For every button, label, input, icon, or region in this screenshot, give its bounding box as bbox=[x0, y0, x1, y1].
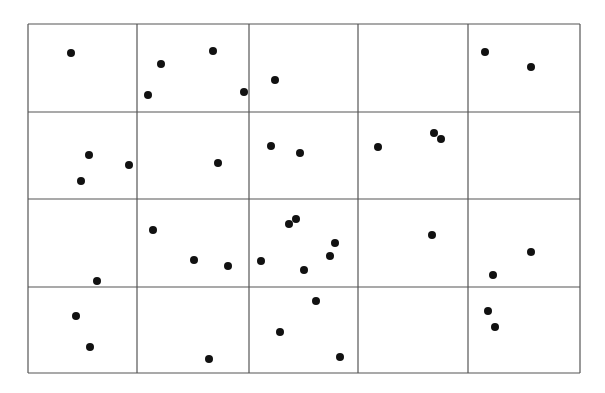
dot-point bbox=[326, 252, 334, 260]
dot-point bbox=[149, 226, 157, 234]
dot-point bbox=[205, 355, 213, 363]
dot-point bbox=[144, 91, 152, 99]
dot-point bbox=[157, 60, 165, 68]
grid-lines bbox=[28, 24, 580, 373]
dot-point bbox=[481, 48, 489, 56]
dot-point bbox=[224, 262, 232, 270]
dot-point bbox=[257, 257, 265, 265]
dot-point bbox=[374, 143, 382, 151]
dot-point bbox=[85, 151, 93, 159]
dot-point bbox=[437, 135, 445, 143]
dot-point bbox=[489, 271, 497, 279]
dot-point bbox=[267, 142, 275, 150]
dot-point bbox=[527, 63, 535, 71]
dot-point bbox=[312, 297, 320, 305]
dot-point bbox=[93, 277, 101, 285]
dot-point bbox=[271, 76, 279, 84]
dot-point bbox=[336, 353, 344, 361]
dot-point bbox=[527, 248, 535, 256]
dot-point bbox=[86, 343, 94, 351]
dot-point bbox=[300, 266, 308, 274]
dot-point bbox=[214, 159, 222, 167]
dot-point bbox=[209, 47, 217, 55]
dot-point bbox=[430, 129, 438, 137]
dot-point bbox=[285, 220, 293, 228]
dot-point bbox=[72, 312, 80, 320]
dot-point bbox=[125, 161, 133, 169]
dot-point bbox=[67, 49, 75, 57]
dot-point bbox=[296, 149, 304, 157]
dot-point bbox=[240, 88, 248, 96]
dot-point bbox=[77, 177, 85, 185]
dot-grid-diagram bbox=[0, 0, 605, 393]
dot-point bbox=[428, 231, 436, 239]
dot-point bbox=[292, 215, 300, 223]
dot-point bbox=[276, 328, 284, 336]
dot-point bbox=[190, 256, 198, 264]
dot-point bbox=[484, 307, 492, 315]
dot-point bbox=[331, 239, 339, 247]
dot-point bbox=[491, 323, 499, 331]
